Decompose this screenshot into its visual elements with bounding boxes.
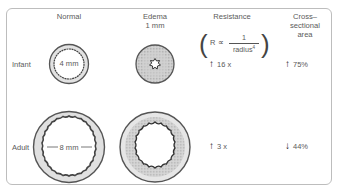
up-arrow-icon: ↑: [209, 59, 214, 69]
adult-edema-airway: [120, 112, 190, 182]
adult-resistance: ↑ 3 x: [209, 141, 227, 151]
up-arrow-icon: ↑: [209, 141, 214, 151]
infant-area-value: 75%: [293, 60, 308, 69]
infant-area: ↑ 75%: [285, 59, 308, 69]
adult-diameter-label: 8 mm: [60, 143, 79, 152]
infant-edema-airway: [136, 45, 174, 83]
infant-resistance-value: 16 x: [217, 60, 231, 69]
adult-area: ↓ 44%: [285, 141, 308, 151]
infant-diameter-label: 4 mm: [60, 59, 79, 68]
infant-resistance: ↑ 16 x: [209, 59, 231, 69]
down-arrow-icon: ↓: [285, 141, 290, 151]
adult-area-value: 44%: [293, 142, 308, 151]
up-arrow-icon: ↑: [285, 59, 290, 69]
airway-diagrams: [0, 0, 341, 195]
adult-resistance-value: 3 x: [217, 142, 227, 151]
